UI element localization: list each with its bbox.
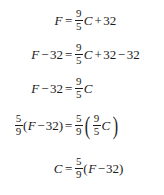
variable-f: F [88,162,97,175]
equals-sign: = [63,119,74,132]
equation-5-right-side: 5 9 ( F − 32 ) [74,156,123,180]
equation-row-2: F − 32 = 9 5 C + 32 − 32 [0,40,164,68]
fraction-five-ninths: 5 9 [75,156,83,180]
equation-5-left-side: C [0,162,63,175]
parenthesized-group: ( 9 5 C ) [83,113,119,137]
equation-2-left-side: F − 32 [0,48,63,61]
equation-2-right-side: 9 5 C + 32 − 32 [74,42,139,66]
minus-operator: − [97,162,106,175]
fraction-denominator: 5 [75,21,83,33]
fraction-denominator: 9 [15,126,23,138]
fraction-nine-fifths: 9 5 [75,8,83,32]
equation-3-left-side: F − 32 [0,82,63,95]
fraction-numerator: 9 [75,8,83,20]
variable-f: F [31,82,40,95]
paren-close: ) [119,162,123,175]
fraction-numerator: 5 [75,156,83,168]
constant-32-subtracted: 32 [127,48,140,61]
variable-f: F [54,14,63,27]
fraction-denominator: 9 [75,169,83,181]
variable-c: C [101,119,111,132]
fraction-nine-fifths: 9 5 [75,42,83,66]
equals-sign: = [63,14,74,27]
minus-operator: − [40,48,50,61]
equation-4-right-side: 5 9 ( 9 5 C ) [74,113,119,137]
constant-32: 32 [106,162,119,175]
equals-sign: = [63,48,74,61]
equation-row-5: C = 5 9 ( F − 32 ) [0,152,164,184]
fraction-numerator: 5 [75,113,83,125]
fraction-denominator: 5 [93,126,101,138]
fraction-numerator: 9 [75,76,83,88]
constant-32: 32 [46,119,59,132]
constant-32: 32 [50,82,63,95]
variable-c: C [83,48,93,61]
fraction-numerator: 9 [93,113,101,125]
variable-f: F [31,48,40,61]
equation-row-1: F = 9 5 C + 32 [0,6,164,34]
constant-32: 32 [50,48,63,61]
plus-operator: + [93,48,103,61]
fraction-denominator: 9 [75,126,83,138]
constant-32-added: 32 [103,48,116,61]
fraction-numerator: 9 [75,42,83,54]
variable-c: C [53,162,63,175]
fraction-denominator: 5 [75,89,83,101]
fraction-nine-fifths: 9 5 [75,76,83,100]
equation-4-left-side: 5 9 ( F − 32 ) [0,113,63,137]
variable-c: C [83,14,93,27]
minus-operator: − [116,48,126,61]
minus-operator: − [40,82,50,95]
constant-32: 32 [103,14,116,27]
fraction-numerator: 5 [15,113,23,125]
equals-sign: = [63,162,74,175]
equation-1-right-side: 9 5 C + 32 [74,8,116,32]
equation-1-left-side: F [0,14,63,27]
equation-row-4: 5 9 ( F − 32 ) = 5 9 ( 9 5 [0,109,164,141]
variable-f: F [27,119,36,132]
equation-3-right-side: 9 5 C [74,76,93,100]
fraction-five-ninths: 5 9 [75,113,83,137]
equation-row-3: F − 32 = 9 5 C [0,74,164,102]
math-derivation-block: F = 9 5 C + 32 F − 32 = 9 5 C [0,0,164,195]
equals-sign: = [63,82,74,95]
variable-c: C [83,82,93,95]
plus-operator: + [93,14,103,27]
fraction-denominator: 5 [75,55,83,67]
fraction-five-ninths: 5 9 [15,113,23,137]
fraction-nine-fifths-inner: 9 5 [93,113,101,137]
minus-operator: − [36,119,45,132]
